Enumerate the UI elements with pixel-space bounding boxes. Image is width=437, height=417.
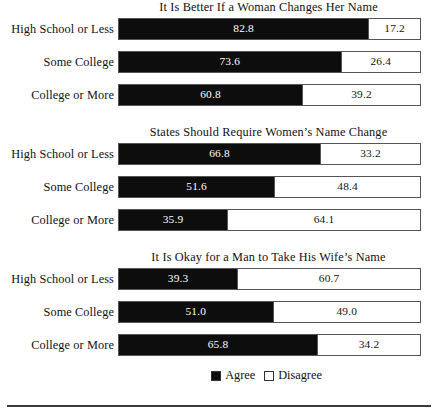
category-label: College or More [0,338,118,352]
bar-segment-agree: 51.6 [119,177,274,197]
bar-row: College or More 35.9 64.1 [0,209,437,231]
stacked-bar-track: 65.8 34.2 [118,334,421,356]
bar-segment-disagree: 33.2 [320,144,420,164]
bar-row: College or More 60.8 39.2 [0,84,437,106]
chart-legend: Agree Disagree [0,368,437,383]
chart-panel-2: States Should Require Women’s Name Chang… [0,125,437,231]
chart-panel-3: It Is Okay for a Man to Take His Wife’s … [0,250,437,356]
stacked-bar-track: 73.6 26.4 [118,51,421,73]
category-label: High School or Less [0,22,118,36]
stacked-bar-track: 51.0 49.0 [118,301,421,323]
bar-segment-disagree: 64.1 [227,210,420,230]
bar-row: High School or Less 39.3 60.7 [0,268,437,290]
bar-row: High School or Less 82.8 17.2 [0,18,437,40]
category-label: High School or Less [0,272,118,286]
bar-rows-2: High School or Less 66.8 33.2 Some Colle… [0,143,437,231]
category-label: High School or Less [0,147,118,161]
bar-segment-disagree: 48.4 [274,177,420,197]
bar-segment-agree: 66.8 [119,144,320,164]
stacked-bar-track: 60.8 39.2 [118,84,421,106]
bar-segment-agree: 39.3 [119,269,237,289]
category-label: Some College [0,55,118,69]
bar-segment-agree: 60.8 [119,85,302,105]
category-label: Some College [0,180,118,194]
legend-swatch-disagree-icon [264,371,274,381]
category-label: Some College [0,305,118,319]
panel-title-1: It Is Better If a Woman Changes Her Name [0,0,437,15]
bar-row: High School or Less 66.8 33.2 [0,143,437,165]
stacked-bar-track: 82.8 17.2 [118,18,421,40]
bar-segment-disagree: 17.2 [368,19,420,39]
legend-label-disagree: Disagree [278,368,322,383]
stacked-bar-track: 51.6 48.4 [118,176,421,198]
bar-row: College or More 65.8 34.2 [0,334,437,356]
stacked-bar-chart-figure: It Is Better If a Woman Changes Her Name… [0,0,437,417]
category-label: College or More [0,88,118,102]
stacked-bar-track: 39.3 60.7 [118,268,421,290]
bar-segment-disagree: 60.7 [237,269,420,289]
bar-segment-agree: 35.9 [119,210,227,230]
category-label: College or More [0,213,118,227]
stacked-bar-track: 66.8 33.2 [118,143,421,165]
bar-segment-disagree: 49.0 [273,302,420,322]
legend-item-agree: Agree [211,368,255,383]
bar-rows-1: High School or Less 82.8 17.2 Some Colle… [0,18,437,106]
bar-rows-3: High School or Less 39.3 60.7 Some Colle… [0,268,437,356]
bar-segment-disagree: 39.2 [302,85,420,105]
bar-segment-agree: 65.8 [119,335,317,355]
legend-label-agree: Agree [225,368,255,383]
legend-item-disagree: Disagree [264,368,322,383]
bar-segment-disagree: 34.2 [317,335,420,355]
bar-row: Some College 51.6 48.4 [0,176,437,198]
footer-divider [7,405,431,407]
bar-row: Some College 73.6 26.4 [0,51,437,73]
stacked-bar-track: 35.9 64.1 [118,209,421,231]
chart-panel-1: It Is Better If a Woman Changes Her Name… [0,0,437,106]
legend-swatch-agree-icon [211,371,221,381]
panel-title-3: It Is Okay for a Man to Take His Wife’s … [0,250,437,265]
bar-segment-agree: 82.8 [119,19,368,39]
bar-segment-agree: 73.6 [119,52,341,72]
bar-segment-agree: 51.0 [119,302,273,322]
bar-segment-disagree: 26.4 [341,52,420,72]
bar-row: Some College 51.0 49.0 [0,301,437,323]
panel-title-2: States Should Require Women’s Name Chang… [0,125,437,140]
